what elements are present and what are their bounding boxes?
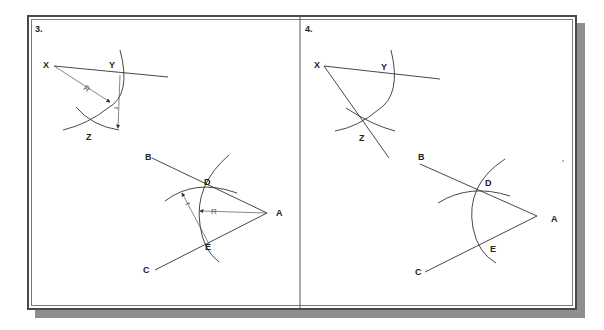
point-b-label: B (145, 152, 152, 162)
arc-r-small (76, 107, 119, 130)
point-z-label-4: Z (359, 133, 365, 143)
point-a-label-4: A (551, 214, 558, 224)
point-c-label-4: C (415, 267, 422, 277)
dimension-R (54, 66, 110, 102)
point-c-label: C (143, 265, 150, 275)
dimension-R2-label: R (211, 207, 217, 216)
panel-4 (324, 50, 537, 272)
dimension-r-label: r (112, 107, 121, 110)
dimension-r2 (182, 193, 209, 244)
point-b-label-4: B (418, 152, 425, 162)
geometry-drawing: 3. X Y Z R r B D A E C R r 4. X Y Z B D … (0, 0, 604, 330)
dimension-r2-label: r (183, 200, 192, 207)
point-d-label: D (204, 177, 211, 187)
line-ac-4 (425, 216, 537, 272)
arc-de-4 (472, 159, 505, 263)
point-y-label: Y (109, 60, 115, 70)
point-y-label-4: Y (381, 62, 387, 72)
dimension-r (118, 75, 120, 128)
arc-small-4 (346, 108, 395, 131)
point-a-label: A (276, 208, 283, 218)
point-z-label: Z (86, 132, 92, 142)
point-e-label: E (205, 242, 211, 252)
line-ab-4 (420, 164, 537, 216)
point-d-label-4: D (485, 178, 492, 188)
panel-3-number: 3. (35, 24, 43, 34)
line-xz-4 (324, 66, 389, 158)
point-e-label-4: E (490, 244, 496, 254)
point-x-label-4: X (314, 60, 320, 70)
panel-4-number: 4. (305, 24, 313, 34)
point-x-label: X (43, 60, 49, 70)
